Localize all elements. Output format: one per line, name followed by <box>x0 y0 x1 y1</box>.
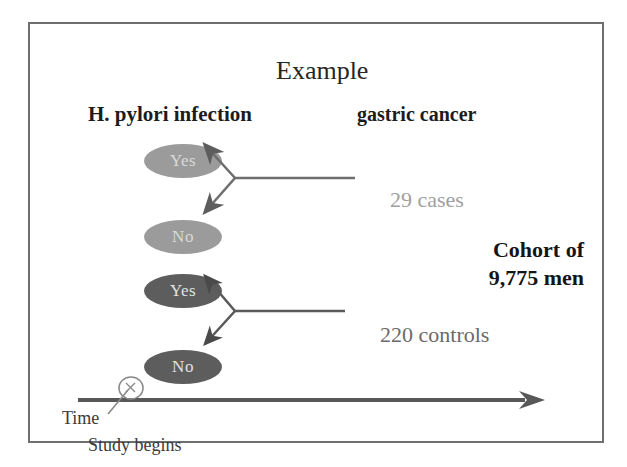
cohort-line-1: Cohort of <box>489 236 584 264</box>
node-label: No <box>172 357 194 377</box>
slide-frame: Example H. pylori infection gastric canc… <box>28 22 604 443</box>
node-control-no: No <box>144 350 222 384</box>
node-label: No <box>172 227 194 247</box>
column-header-outcome: gastric cancer <box>357 104 476 124</box>
timeline-axis-label: Time <box>62 409 99 427</box>
node-label: Yes <box>170 151 196 171</box>
node-exposed-no: No <box>144 220 222 254</box>
page-title: Example <box>276 58 368 84</box>
timeline-start-marker-label: Study begins <box>88 436 182 454</box>
cohort-annotation: Cohort of 9,775 men <box>489 236 584 291</box>
node-control-yes: Yes <box>144 274 222 308</box>
node-label: Yes <box>170 281 196 301</box>
group-label-controls: 220 controls <box>380 324 489 346</box>
column-header-exposure: H. pylori infection <box>88 104 252 125</box>
group-label-cases: 29 cases <box>390 189 464 211</box>
cohort-line-2: 9,775 men <box>489 264 584 292</box>
node-exposed-yes: Yes <box>144 144 222 178</box>
